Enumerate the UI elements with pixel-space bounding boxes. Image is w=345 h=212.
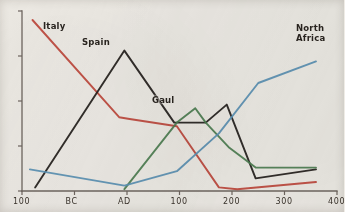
x-tick-label-3: 100 <box>171 197 188 206</box>
x-tick-label-0: 100 <box>13 197 30 206</box>
x-tick-label-2: AD <box>118 197 131 206</box>
north-africa-label: North Africa <box>296 24 325 43</box>
spain-label: Spain <box>82 38 110 48</box>
italy-label: Italy <box>43 22 65 32</box>
x-tick-label-1: BC <box>66 197 78 206</box>
gaul-label: Gaul <box>152 96 174 106</box>
x-tick-label-5: 300 <box>276 197 293 206</box>
x-tick-label-4: 200 <box>223 197 240 206</box>
x-tick-label-6: 400 <box>328 197 345 206</box>
